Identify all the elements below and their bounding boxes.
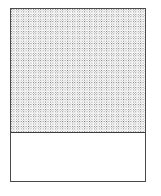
empty-region xyxy=(11,133,145,181)
container-rect xyxy=(10,8,146,182)
fill-region xyxy=(11,9,145,132)
figure-canvas xyxy=(0,0,161,196)
